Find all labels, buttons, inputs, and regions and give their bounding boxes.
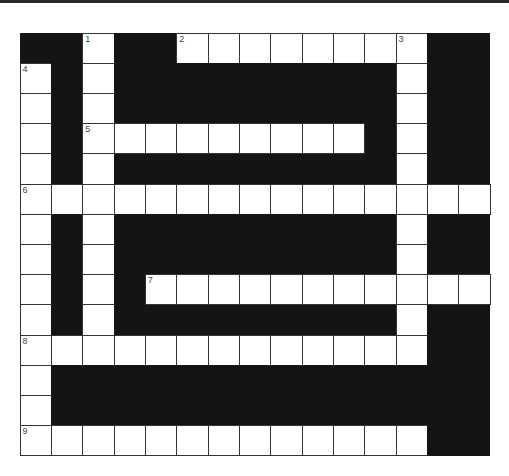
crossword-cell[interactable] <box>176 335 208 366</box>
crossword-cell[interactable] <box>396 304 428 335</box>
crossword-cell[interactable] <box>364 335 396 366</box>
crossword-cell[interactable] <box>396 184 428 215</box>
crossword-cell[interactable] <box>114 335 146 366</box>
crossword-cell[interactable] <box>333 335 365 366</box>
crossword-cell[interactable] <box>82 244 114 275</box>
crossword-cell[interactable] <box>208 123 240 154</box>
crossword-cell[interactable] <box>302 184 334 215</box>
blocked-cell <box>177 63 208 93</box>
crossword-cell[interactable]: 9 <box>20 425 52 456</box>
crossword-cell[interactable] <box>458 274 490 305</box>
crossword-cell[interactable] <box>333 33 365 64</box>
crossword-cell[interactable] <box>82 93 114 124</box>
crossword-cell[interactable] <box>145 335 177 366</box>
crossword-cell[interactable]: 8 <box>20 335 52 366</box>
crossword-cell[interactable] <box>51 335 83 366</box>
crossword-cell[interactable] <box>396 335 428 366</box>
crossword-cell[interactable]: 4 <box>20 63 52 94</box>
crossword-cell[interactable] <box>82 335 114 366</box>
crossword-cell[interactable] <box>396 425 428 456</box>
crossword-cell[interactable] <box>302 425 334 456</box>
crossword-cell[interactable] <box>396 214 428 245</box>
crossword-cell[interactable] <box>20 153 52 184</box>
crossword-cell[interactable] <box>20 274 52 305</box>
blocked-cell <box>302 305 333 335</box>
crossword-cell[interactable] <box>270 184 302 215</box>
crossword-cell[interactable]: 3 <box>396 33 428 64</box>
crossword-cell[interactable] <box>302 335 334 366</box>
crossword-cell[interactable] <box>208 335 240 366</box>
crossword-cell[interactable] <box>20 123 52 154</box>
clue-number: 3 <box>399 35 404 44</box>
blocked-cell <box>208 214 239 244</box>
crossword-cell[interactable] <box>396 153 428 184</box>
crossword-cell[interactable] <box>20 93 52 124</box>
crossword-cell[interactable] <box>51 184 83 215</box>
crossword-cell[interactable] <box>208 425 240 456</box>
crossword-cell[interactable] <box>302 274 334 305</box>
crossword-cell[interactable] <box>20 304 52 335</box>
crossword-cell[interactable] <box>114 184 146 215</box>
crossword-cell[interactable] <box>270 335 302 366</box>
crossword-cell[interactable] <box>364 33 396 64</box>
crossword-cell[interactable] <box>239 425 271 456</box>
blocked-cell <box>83 396 114 426</box>
crossword-cell[interactable] <box>82 184 114 215</box>
crossword-cell[interactable]: 2 <box>176 33 208 64</box>
crossword-cell[interactable] <box>396 244 428 275</box>
crossword-cell[interactable] <box>239 335 271 366</box>
crossword-cell[interactable] <box>208 274 240 305</box>
crossword-cell[interactable] <box>396 123 428 154</box>
crossword-cell[interactable] <box>333 184 365 215</box>
crossword-cell[interactable] <box>239 184 271 215</box>
blocked-cell <box>459 244 490 274</box>
crossword-cell[interactable] <box>427 184 459 215</box>
crossword-cell[interactable] <box>114 425 146 456</box>
crossword-cell[interactable] <box>145 425 177 456</box>
crossword-cell[interactable] <box>239 274 271 305</box>
crossword-cell[interactable]: 5 <box>82 123 114 154</box>
crossword-cell[interactable]: 7 <box>145 274 177 305</box>
crossword-cell[interactable] <box>20 395 52 426</box>
crossword-cell[interactable] <box>208 33 240 64</box>
crossword-cell[interactable] <box>364 184 396 215</box>
crossword-cell[interactable] <box>364 274 396 305</box>
crossword-cell[interactable] <box>333 425 365 456</box>
crossword-cell[interactable] <box>396 274 428 305</box>
crossword-cell[interactable] <box>176 274 208 305</box>
crossword-cell[interactable] <box>176 425 208 456</box>
crossword-cell[interactable] <box>270 123 302 154</box>
crossword-cell[interactable]: 6 <box>20 184 52 215</box>
crossword-cell[interactable] <box>270 274 302 305</box>
crossword-cell[interactable] <box>239 33 271 64</box>
crossword-cell[interactable] <box>145 123 177 154</box>
crossword-cell[interactable] <box>396 63 428 94</box>
crossword-cell[interactable] <box>364 425 396 456</box>
crossword-cell[interactable] <box>20 365 52 396</box>
crossword-cell[interactable] <box>302 33 334 64</box>
crossword-cell[interactable] <box>114 123 146 154</box>
crossword-cell[interactable]: 1 <box>82 33 114 64</box>
crossword-cell[interactable] <box>208 184 240 215</box>
crossword-cell[interactable] <box>82 425 114 456</box>
crossword-cell[interactable] <box>458 184 490 215</box>
crossword-cell[interactable] <box>20 214 52 245</box>
crossword-cell[interactable] <box>333 123 365 154</box>
crossword-cell[interactable] <box>82 63 114 94</box>
crossword-cell[interactable] <box>270 425 302 456</box>
crossword-cell[interactable] <box>82 214 114 245</box>
crossword-cell[interactable] <box>396 93 428 124</box>
crossword-cell[interactable] <box>51 425 83 456</box>
crossword-cell[interactable] <box>333 274 365 305</box>
crossword-cell[interactable] <box>82 153 114 184</box>
crossword-cell[interactable] <box>239 123 271 154</box>
crossword-cell[interactable] <box>302 123 334 154</box>
crossword-cell[interactable] <box>20 244 52 275</box>
crossword-cell[interactable] <box>427 274 459 305</box>
crossword-cell[interactable] <box>176 123 208 154</box>
crossword-cell[interactable] <box>176 184 208 215</box>
crossword-cell[interactable] <box>270 33 302 64</box>
crossword-cell[interactable] <box>82 304 114 335</box>
crossword-cell[interactable] <box>145 184 177 215</box>
crossword-cell[interactable] <box>82 274 114 305</box>
